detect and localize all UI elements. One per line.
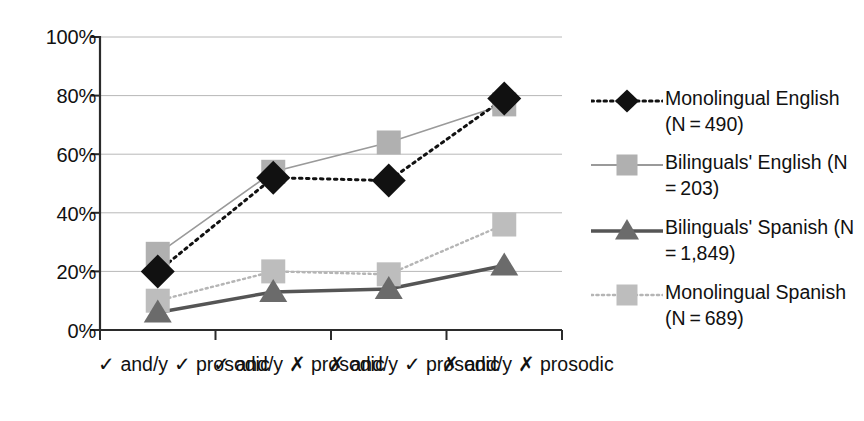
legend-label-monolingual-english: Monolingual English (N = 490) (665, 86, 864, 137)
x-tick-label-3: ✗ and/y ✗ prosodic (442, 352, 562, 377)
x-tick-label-1: ✓ and/y ✗ prosodic (213, 352, 333, 377)
legend-key-diamond-icon (591, 88, 663, 114)
legend-label-bilinguals-english: Bilinguals' English (N = 203) (665, 150, 864, 201)
legend-label-monolingual-spanish: Monolingual Spanish (N = 689) (665, 280, 864, 331)
y-tick-label: 60% (10, 144, 96, 167)
legend-entry-monolingual-english[interactable]: Monolingual English (N = 490) (591, 88, 864, 137)
data-point-marker (372, 164, 406, 198)
y-tick-label: 80% (10, 85, 96, 108)
x-tick-label-0: ✓ and/y ✓ prosodic (98, 352, 218, 377)
legend-entry-bilinguals-spanish[interactable]: Bilinguals' Spanish (N = 1,849) (591, 217, 864, 266)
legend-key-triangle-icon (591, 217, 663, 243)
y-tick-label: 20% (10, 261, 96, 284)
chart-figure: 100% 80% 60% 40% 20% 0% ✓ and/y ✓ prosod… (0, 0, 864, 421)
x-tick-label-2: ✗ and/y ✓ prosodic (328, 352, 448, 377)
y-tick-label: 0% (10, 320, 96, 343)
data-point-marker (377, 130, 401, 154)
series-lines (158, 99, 505, 313)
legend-label-bilinguals-spanish: Bilinguals' Spanish (N = 1,849) (665, 215, 864, 266)
y-tick-label: 100% (10, 26, 96, 49)
legend-entry-bilinguals-english[interactable]: Bilinguals' English (N = 203) (591, 152, 864, 201)
legend-key-square-icon (591, 152, 663, 178)
gridlines (100, 37, 562, 330)
y-tick-label: 40% (10, 203, 96, 226)
legend-entry-monolingual-spanish[interactable]: Monolingual Spanish (N = 689) (591, 282, 864, 331)
data-point-marker (492, 213, 516, 237)
data-point-marker (490, 253, 518, 276)
legend-key-square-light-icon (591, 282, 663, 308)
